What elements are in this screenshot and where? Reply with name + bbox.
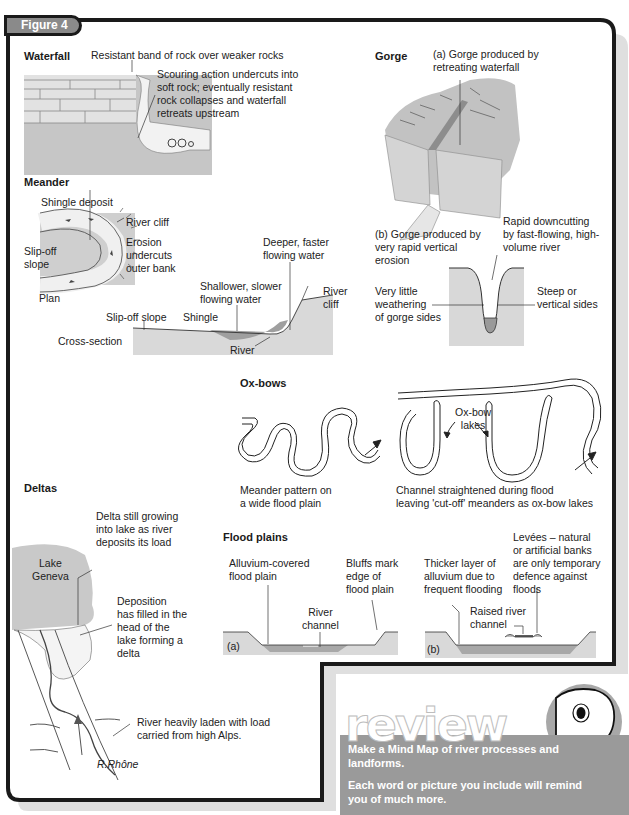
oxbow-lakes-label: Ox-bow lakes [455,406,491,432]
waterfall-title: Waterfall [24,50,70,62]
figure-frame [0,0,629,815]
waterfall-label-scouring: Scouring action undercuts into soft rock… [157,68,298,120]
floodplain-a-tag: (a) [227,640,240,653]
meander-river-cliff-label: River cliff [126,216,169,229]
delta-lake-label: Lake Geneva [32,557,69,583]
floodplain-a-bluffs-label: Bluffs mark edge of flood plain [346,557,398,596]
meander-slip-off-label: Slip-off slope [24,245,57,271]
delta-growing-label: Delta still growing into lake as river d… [96,510,178,549]
oxbows-title: Ox-bows [240,377,286,389]
meander-shingle-deposit-label: Shingle deposit [41,196,113,209]
gorge-downcutting-label: Rapid downcutting by fast-flowing, high-… [503,215,599,254]
floodplain-b-tag: (b) [427,643,440,656]
deltas-title: Deltas [24,482,57,494]
figure-label: Figure 4 [4,15,82,36]
floodplain-b-raised-label: Raised river channel [470,605,526,631]
meander-river-cliff-cs-label: River cliff [323,285,348,311]
delta-river-name: R.Rhône [97,758,138,771]
meander-cross-section-label: Cross-section [58,335,122,348]
review-instruction-1: Make a Mind Map of river processes and l… [348,742,559,770]
floodplain-b-levees-label: Levées – natural or artificial banks are… [513,531,601,596]
delta-deposition-label: Deposition has filled in the head of the… [117,595,187,660]
floodplains-title: Flood plains [223,531,288,543]
delta-laden-label: River heavily laden with load carried fr… [137,716,270,742]
gorge-a-label: (a) Gorge produced by retreating waterfa… [433,48,539,74]
meander-shallower-label: Shallower, slower flowing water [200,280,282,306]
floodplain-a-alluvium-label: Alluvium-covered flood plain [229,557,310,583]
review-instruction-2: Each word or picture you include will re… [348,778,582,806]
floodplain-b-thicker-label: Thicker layer of alluvium due to frequen… [424,557,502,596]
meander-title: Meander [24,176,69,188]
oxbow-caption-left: Meander pattern on a wide flood plain [240,484,332,510]
gorge-weathering-label: Very little weathering of gorge sides [375,285,441,324]
gorge-title: Gorge [375,50,407,62]
meander-river-label: River [230,344,255,357]
waterfall-label-resistant: Resistant band of rock over weaker rocks [91,49,284,62]
meander-shingle-label: Shingle [183,311,218,324]
meander-erosion-label: Erosion undercuts outer bank [126,236,176,275]
gorge-steep-label: Steep or vertical sides [537,285,598,311]
floodplain-a-channel-label: River channel [302,606,339,632]
meander-plan-label: Plan [39,292,60,305]
gorge-b-label: (b) Gorge produced by very rapid vertica… [375,228,481,267]
meander-slip-off-cs-label: Slip-off slope [106,311,167,324]
oxbow-caption-right: Channel straightened during flood leavin… [396,484,593,510]
meander-deeper-label: Deeper, faster flowing water [263,236,329,262]
